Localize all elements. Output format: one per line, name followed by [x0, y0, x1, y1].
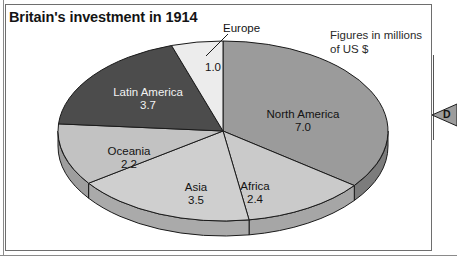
europe-callout-label: Europe	[223, 22, 260, 34]
pie-chart-graphic	[0, 0, 457, 259]
edge-tick-line	[433, 55, 434, 140]
pie-chart-figure: Britain's investment in 1914 Figures in …	[0, 0, 457, 259]
edge-marker-d[interactable]: D	[431, 103, 457, 127]
edge-marker-letter: D	[443, 108, 451, 120]
pie-top-faces	[58, 41, 388, 221]
